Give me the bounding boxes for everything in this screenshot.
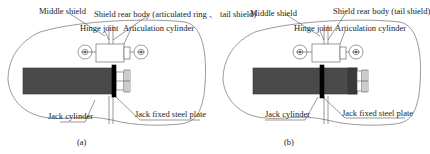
panel-a-label-articulation-cylinder: Articulation cylinder (123, 24, 194, 33)
panel-b-label-jack-cylinder: Jack cylinder (265, 110, 310, 119)
panel-b-jack-cylinder (253, 68, 357, 94)
panel-a-articulation-cylinder (96, 44, 124, 62)
panel-b-label-shield-rear-body: Shield rear body (tail shield) (333, 7, 430, 16)
panel-a-label-middle-shield: Middle shield (39, 7, 86, 16)
panel-b-label-hinge-joint: Hinge joint (294, 24, 332, 33)
panel-a-label-hinge-joint: Hinge joint (80, 24, 118, 33)
panel-b-label-middle-shield: Middle shield (250, 9, 297, 18)
panel-a-jack-fixed-steel-plate (112, 65, 116, 97)
panel-b-label-jack-fixed-steel-plate: Jack fixed steel plate (342, 109, 413, 118)
panel-a-label-jack-cylinder: Jack cylinder (48, 112, 93, 121)
panel-b-caption: (b) (284, 138, 294, 147)
panel-b-articulation-cylinder (312, 44, 340, 62)
panel-a-label-shield-rear-body: Shield rear body (articulated ring 、 tai… (94, 10, 256, 19)
panel-b-label-articulation-cylinder: Articulation cylinder (335, 24, 406, 33)
panel-a-jack-cylinder (23, 68, 112, 94)
panel-a-caption: (a) (77, 138, 86, 147)
panel-a-label-jack-fixed-steel-plate: Jack fixed steel plate (135, 110, 206, 119)
panel-b-jack-fixed-steel-plate (320, 65, 324, 98)
